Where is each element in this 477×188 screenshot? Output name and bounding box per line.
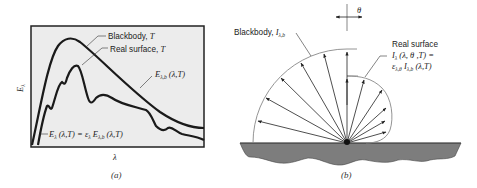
real-surface-rays — [347, 79, 386, 143]
theta-indicator: θ — [336, 4, 362, 31]
label-directional-emissivity: ελ,θ Iλ,b (λ,T) — [392, 61, 432, 72]
label-real-emissive-power-eq: Eλ (λ,T) = ελ Eλ,b (λ,T) — [48, 129, 123, 140]
panel-b: θ Bla — [234, 4, 461, 180]
figure-canvas: Blackbody, T Real surface, T Eλ,b (λ,T) … — [0, 0, 477, 188]
label-blackbody-emissive-power: Eλ,b (λ,T) — [154, 69, 185, 80]
label-blackbody: Blackbody, T — [108, 31, 156, 41]
panel-a: Blackbody, T Real surface, T Eλ,b (λ,T) … — [15, 26, 204, 180]
label-real-surface-b: Real surface — [392, 40, 438, 49]
blackbody-arc — [253, 49, 357, 143]
y-axis-label: Eλ — [15, 84, 26, 93]
ground-surface — [240, 143, 461, 165]
theta-label: θ — [357, 5, 361, 15]
label-real-surface: Real surface, T — [110, 44, 167, 54]
x-axis-label: λ — [112, 152, 117, 162]
emission-point — [344, 139, 350, 145]
label-blackbody-intensity: Blackbody, Iλ,b — [234, 27, 285, 38]
leader-blackbody-b — [296, 33, 311, 56]
caption-a: (a) — [111, 170, 122, 180]
blackbody-rays — [258, 52, 347, 143]
caption-b: (b) — [341, 170, 352, 180]
label-real-intensity: Iλ (λ, θ ,T) = — [391, 50, 434, 61]
leader-real-surface-b — [365, 56, 387, 77]
